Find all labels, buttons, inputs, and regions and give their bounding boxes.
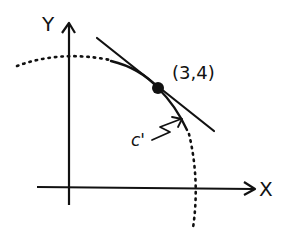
- curve-label: c': [131, 130, 145, 150]
- point-label: (3,4): [172, 62, 215, 83]
- y-axis: [62, 23, 75, 205]
- circle-dotted-lower: [189, 134, 196, 228]
- y-axis-label: Y: [42, 12, 54, 36]
- diagram-canvas: Y X (3,4) c': [0, 0, 290, 240]
- point-marker: [152, 82, 164, 94]
- diagram-drawing: [0, 0, 290, 240]
- circle-dotted-upper: [17, 56, 110, 66]
- curve-label-arrow: [152, 117, 182, 140]
- x-axis-label: X: [259, 177, 273, 201]
